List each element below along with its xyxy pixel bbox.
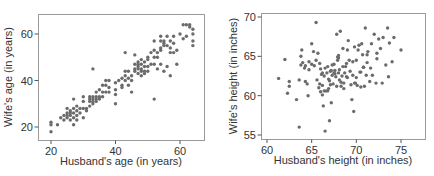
data-point [127,70,130,73]
data-point [339,85,342,88]
data-point [65,114,68,117]
data-point [318,62,321,65]
data-point [162,44,165,47]
data-point [335,33,338,36]
data-point [133,53,136,56]
data-point [114,93,117,96]
data-point [369,66,372,69]
data-point [373,33,376,36]
data-point [381,81,384,84]
data-point [321,71,324,74]
data-point [379,47,382,50]
data-point [351,60,354,63]
x-axis-label: Husband's age (in years) [60,155,182,167]
data-point [338,68,341,71]
data-point [286,92,289,95]
data-point [156,56,159,59]
y-tick-label: 40 [21,75,33,87]
data-point [182,23,185,26]
y-tick-label: 65 [244,50,256,62]
data-point [82,100,85,103]
data-point [78,111,81,114]
data-point [390,60,393,63]
data-point [323,129,326,132]
data-point [333,69,336,72]
data-point [387,75,390,78]
data-point [104,90,107,93]
data-point [307,68,310,71]
data-point [384,63,387,66]
data-point [188,23,191,26]
data-point [127,84,130,87]
data-point [316,52,319,55]
data-point [49,130,52,133]
data-point [75,114,78,117]
data-point [336,59,339,62]
data-point [107,90,110,93]
y-axis-ticks: 55606570 [244,11,262,141]
data-point [191,44,194,47]
data-point [349,83,352,86]
data-point [146,65,149,68]
data-point [69,118,72,121]
x-axis-label: Husband's height (in inches) [274,154,412,166]
data-point [117,79,120,82]
data-point [185,35,188,38]
data-point [360,42,363,45]
data-point [355,59,358,62]
data-point [185,23,188,26]
y-axis-label: Wife's height (in inches) [227,18,239,134]
data-point [362,66,365,69]
data-point [335,85,338,88]
data-point [363,85,366,88]
data-point [136,67,139,70]
data-point [95,90,98,93]
data-point [288,80,291,83]
data-point [72,97,75,100]
data-point [159,39,162,42]
data-point [130,79,133,82]
data-point [392,36,395,39]
data-point [342,87,345,90]
data-point [101,90,104,93]
y-tick-label: 60 [21,28,33,40]
data-point [114,88,117,91]
data-point [153,97,156,100]
data-point [104,79,107,82]
data-point [342,81,345,84]
data-point [341,47,344,50]
data-point [124,51,127,54]
data-point [159,35,162,38]
data-point [146,58,149,61]
data-point [120,86,123,89]
data-point [340,74,343,77]
data-point [374,81,377,84]
data-point [319,67,322,70]
data-point [75,118,78,121]
data-point [153,62,156,65]
data-point [330,69,333,72]
data-point [307,60,310,63]
data-point [312,50,315,53]
data-point [310,42,313,45]
data-point [300,48,303,51]
y-tick-label: 60 [244,90,256,102]
data-point [356,84,359,87]
data-point [361,53,364,56]
y-axis-label: Wife's age (in years) [2,27,14,127]
data-point [72,111,75,114]
data-point [172,51,175,54]
data-point [165,44,168,47]
data-point [304,64,307,67]
data-point [75,104,78,107]
data-point [178,32,181,35]
data-point [159,62,162,65]
data-point [143,60,146,63]
data-point [299,63,302,66]
data-point [91,97,94,100]
height-scatter-chart: 60657075 55606570 Husband's height (in i… [227,11,426,166]
data-point [101,84,104,87]
data-point [149,62,152,65]
data-point [169,51,172,54]
data-point [88,104,91,107]
